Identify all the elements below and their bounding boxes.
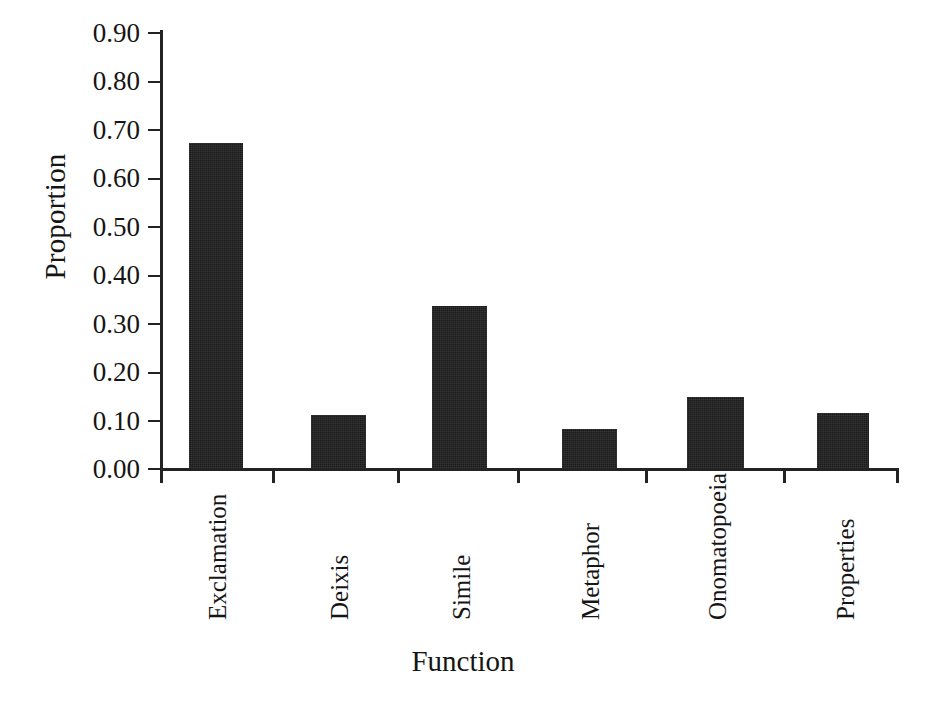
x-tick-mark-6 <box>896 468 899 483</box>
bar-onomatopoeia <box>687 397 744 468</box>
y-tick-label-0.30: 0.30 <box>56 311 140 338</box>
x-category-label-onomatopoeia: Onomatopoeia <box>705 473 730 620</box>
x-tick-mark-4 <box>645 468 648 483</box>
y-tick-label-0.00: 0.00 <box>56 456 140 483</box>
bar-deixis <box>311 415 366 468</box>
bar-simile <box>432 306 487 468</box>
y-tick-label-0.90: 0.90 <box>56 20 140 47</box>
bar-exclamation <box>189 143 243 468</box>
x-tick-mark-1 <box>272 468 275 483</box>
bar-metaphor <box>562 429 617 468</box>
x-tick-mark-3 <box>517 468 520 483</box>
x-axis-title: Function <box>0 645 926 678</box>
x-category-label-metaphor: Metaphor <box>578 523 603 620</box>
x-tick-mark-5 <box>783 468 786 483</box>
x-tick-mark-0 <box>160 468 163 483</box>
x-tick-mark-2 <box>397 468 400 483</box>
bar-chart-figure: Proportion 0.90 0.80 0.70 0.60 0.50 0.40… <box>0 0 926 711</box>
y-tick-label-0.80: 0.80 <box>56 68 140 95</box>
x-category-label-simile: Simile <box>449 555 474 620</box>
y-tick-label-0.70: 0.70 <box>56 117 140 144</box>
y-tick-label-0.20: 0.20 <box>56 359 140 386</box>
x-category-label-properties: Properties <box>833 519 858 620</box>
y-axis-line <box>160 30 163 470</box>
x-axis-line <box>160 468 898 471</box>
x-category-label-deixis: Deixis <box>327 555 352 620</box>
y-tick-label-0.50: 0.50 <box>56 214 140 241</box>
y-tick-label-0.60: 0.60 <box>56 165 140 192</box>
y-tick-label-0.10: 0.10 <box>56 408 140 435</box>
bar-properties <box>817 413 869 468</box>
x-category-label-exclamation: Exclamation <box>205 494 230 620</box>
y-tick-label-0.40: 0.40 <box>56 262 140 289</box>
